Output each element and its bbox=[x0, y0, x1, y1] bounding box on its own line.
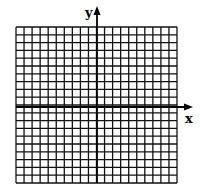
x-axis-label: x bbox=[185, 112, 193, 125]
y-axis-arrow-icon bbox=[94, 6, 101, 15]
y-axis-label: y bbox=[85, 6, 93, 19]
x-axis-arrow-icon bbox=[184, 104, 193, 111]
coordinate-grid bbox=[0, 0, 200, 192]
